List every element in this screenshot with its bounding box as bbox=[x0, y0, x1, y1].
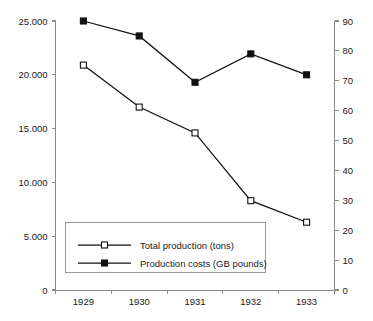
data-point bbox=[192, 130, 198, 136]
right-axis-ticks bbox=[335, 21, 339, 290]
series-layer bbox=[80, 18, 309, 225]
right-tick-label: 0 bbox=[343, 285, 348, 296]
left-tick-label: 5.000 bbox=[24, 231, 48, 242]
right-tick-label: 30 bbox=[343, 195, 354, 206]
legend: Total production (tons)Production costs … bbox=[66, 223, 267, 273]
data-point bbox=[248, 51, 254, 57]
data-point bbox=[192, 79, 198, 85]
right-tick-label: 40 bbox=[343, 165, 354, 176]
bottom-axis-tick-labels: 19291930193119321933 bbox=[73, 296, 317, 307]
x-tick-label: 1932 bbox=[240, 296, 261, 307]
chart-container: 05.00010.00015.00020.00025.000 010203040… bbox=[0, 0, 373, 321]
right-tick-label: 90 bbox=[343, 16, 354, 27]
x-tick-label: 1933 bbox=[296, 296, 317, 307]
right-tick-label: 10 bbox=[343, 255, 354, 266]
x-tick-label: 1931 bbox=[184, 296, 205, 307]
left-tick-label: 25.000 bbox=[18, 16, 47, 27]
left-axis-ticks bbox=[52, 21, 56, 290]
x-tick-label: 1930 bbox=[129, 296, 150, 307]
right-tick-label: 50 bbox=[343, 135, 354, 146]
left-axis-tick-labels: 05.00010.00015.00020.00025.000 bbox=[18, 16, 47, 296]
left-tick-label: 10.000 bbox=[18, 177, 47, 188]
x-tick-label: 1929 bbox=[73, 296, 94, 307]
right-axis-tick-labels: 0102030405060708090 bbox=[343, 16, 354, 296]
series-line bbox=[83, 21, 306, 82]
right-axis: 0102030405060708090 bbox=[335, 16, 354, 296]
left-tick-label: 20.000 bbox=[18, 69, 47, 80]
legend-label: Total production (tons) bbox=[140, 240, 234, 251]
data-point bbox=[136, 33, 142, 39]
data-point bbox=[136, 104, 142, 110]
right-tick-label: 20 bbox=[343, 225, 354, 236]
right-tick-label: 70 bbox=[343, 75, 354, 86]
right-tick-label: 60 bbox=[343, 105, 354, 116]
left-tick-label: 0 bbox=[42, 285, 47, 296]
series-line bbox=[83, 65, 306, 222]
line-chart: 05.00010.00015.00020.00025.000 010203040… bbox=[0, 0, 373, 321]
data-point bbox=[80, 62, 86, 68]
series-1 bbox=[80, 62, 309, 225]
legend-marker bbox=[102, 260, 108, 266]
data-point bbox=[304, 219, 310, 225]
legend-label: Production costs (GB pounds) bbox=[140, 258, 267, 269]
data-point bbox=[248, 198, 254, 204]
series-2 bbox=[80, 18, 309, 85]
left-axis: 05.00010.00015.00020.00025.000 bbox=[18, 16, 55, 296]
legend-marker bbox=[102, 242, 108, 248]
data-point bbox=[80, 18, 86, 24]
right-tick-label: 80 bbox=[343, 45, 354, 56]
left-tick-label: 15.000 bbox=[18, 123, 47, 134]
data-point bbox=[304, 72, 310, 78]
bottom-axis: 19291930193119321933 bbox=[55, 290, 335, 307]
